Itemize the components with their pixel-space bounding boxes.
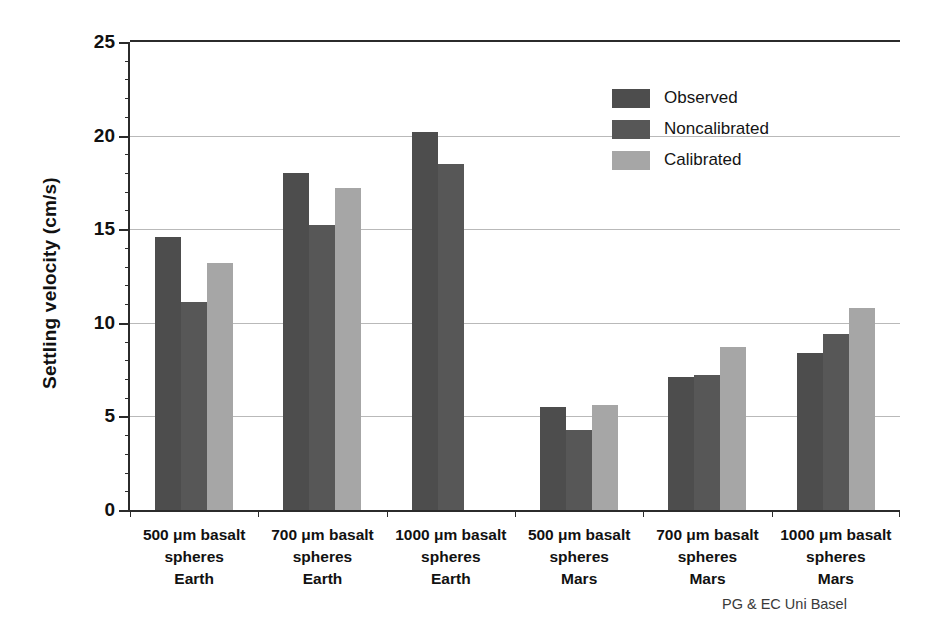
x-tick-mark [387, 510, 388, 517]
legend-item-calibrated: Calibrated [612, 150, 769, 170]
y-tick-label-10: 10 [94, 312, 115, 334]
bar-noncalibrated [181, 302, 207, 510]
x-axis-label-line: Mars [761, 568, 911, 590]
legend-label-calibrated: Calibrated [664, 150, 742, 170]
y-tick-label-25: 25 [94, 31, 115, 53]
bar-observed [412, 132, 438, 510]
chart-legend: Observed Noncalibrated Calibrated [612, 88, 769, 170]
x-tick-mark [515, 510, 516, 517]
bar-noncalibrated [438, 164, 464, 510]
bar-calibrated [207, 263, 233, 510]
bar-calibrated [592, 405, 618, 510]
bar-observed [540, 407, 566, 510]
legend-swatch-noncalibrated [612, 120, 650, 139]
legend-swatch-observed [612, 89, 650, 108]
bar-observed [155, 237, 181, 510]
y-tick-label-20: 20 [94, 125, 115, 147]
bar-group: 500 μm basaltspheresEarth [130, 42, 258, 510]
x-tick-mark [899, 510, 900, 517]
x-tick-mark [130, 510, 131, 517]
bar-calibrated [849, 308, 875, 510]
bar-calibrated [335, 188, 361, 510]
bar-group: 1000 μm basaltspheresEarth [387, 42, 515, 510]
bar-group-bars [130, 42, 258, 510]
bar-noncalibrated [566, 430, 592, 510]
settling-velocity-bar-chart: Settling velocity (cm/s) 0510152025500 μ… [0, 0, 952, 641]
y-tick-label-15: 15 [94, 218, 115, 240]
y-tick-mark-25 [119, 42, 130, 44]
x-tick-mark [258, 510, 259, 517]
y-tick-mark-20 [119, 136, 130, 138]
bar-group-bars [387, 42, 515, 510]
bar-noncalibrated [309, 225, 335, 510]
plot-area: 0510152025500 μm basaltspheresEarth700 μ… [128, 42, 900, 512]
x-tick-mark [643, 510, 644, 517]
y-axis-title: Settling velocity (cm/s) [39, 83, 61, 483]
bar-observed [797, 353, 823, 510]
bar-calibrated [720, 347, 746, 510]
y-tick-mark-5 [119, 416, 130, 418]
bar-group-bars [772, 42, 900, 510]
legend-label-noncalibrated: Noncalibrated [664, 119, 769, 139]
bar-group: 700 μm basaltspheresEarth [258, 42, 386, 510]
y-tick-label-0: 0 [104, 499, 115, 521]
figure-credit: PG & EC Uni Basel [722, 596, 847, 612]
x-axis-label-line: spheres [761, 546, 911, 568]
bar-group: 1000 μm basaltspheresMars [772, 42, 900, 510]
bar-noncalibrated [694, 375, 720, 510]
y-tick-mark-10 [119, 323, 130, 325]
legend-label-observed: Observed [664, 88, 738, 108]
x-axis-label-line: 1000 μm basalt [761, 524, 911, 546]
legend-item-noncalibrated: Noncalibrated [612, 119, 769, 139]
bar-observed [668, 377, 694, 510]
bar-noncalibrated [823, 334, 849, 510]
x-axis-label: 1000 μm basaltspheresMars [761, 524, 911, 590]
bar-group-bars [258, 42, 386, 510]
y-tick-mark-0 [119, 510, 130, 512]
x-tick-mark [772, 510, 773, 517]
y-tick-mark-15 [119, 229, 130, 231]
legend-item-observed: Observed [612, 88, 769, 108]
legend-swatch-calibrated [612, 151, 650, 170]
y-tick-label-5: 5 [104, 405, 115, 427]
bar-observed [283, 173, 309, 510]
